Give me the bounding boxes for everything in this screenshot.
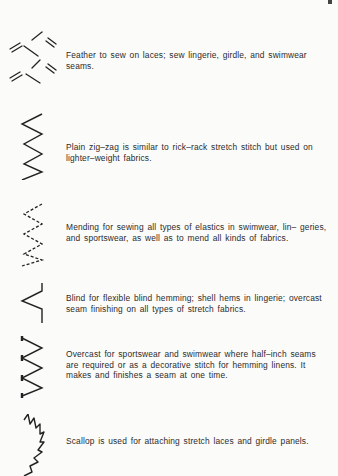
stitch-description: Mending for sewing all types of elastics… (66, 222, 330, 243)
stitch-description: Overcast for sportswear and swimwear whe… (66, 349, 330, 381)
stitch-description: Blind for flexible blind hemming; shell … (66, 293, 330, 314)
stitch-description: Scallop is used for attaching stretch la… (66, 436, 330, 447)
page-number-mark (328, 0, 332, 4)
mending-stitch-icon (4, 200, 54, 268)
stitch-description: Plain zig–zag is similar to rick–rack st… (66, 142, 330, 163)
blind-stitch-icon (4, 283, 54, 325)
plain-zigzag-stitch-icon (4, 110, 54, 180)
stitch-description: Feather to sew on laces; sew lingerie, g… (66, 50, 330, 71)
scallop-stitch-icon (4, 414, 54, 476)
overcast-stitch-icon (4, 336, 54, 398)
feather-stitch-icon (4, 30, 64, 86)
